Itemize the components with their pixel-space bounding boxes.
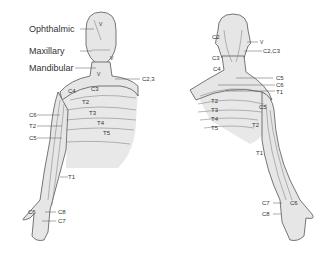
label-post-c5: C5 xyxy=(276,75,284,81)
label-post-c2: C2 xyxy=(212,34,220,40)
label-post-t3: T3 xyxy=(211,107,218,113)
label-post-arm-t2: T2 xyxy=(252,122,259,128)
label-arm-t2: T2 xyxy=(29,123,36,129)
label-arm-t1: T1 xyxy=(68,174,75,180)
label-post-c6: C6 xyxy=(276,82,284,88)
label-post-c3: C3 xyxy=(212,55,220,61)
label-post-c2c3: C2,C3 xyxy=(263,48,280,54)
label-c3: C3 xyxy=(91,86,99,92)
label-face-v3: V xyxy=(97,72,100,77)
label-arm-c5: C5 xyxy=(29,135,37,141)
dermatome-diagram: Ophthalmic Maxillary Mandibular V V V C2… xyxy=(0,0,326,254)
label-face-v2: V xyxy=(110,56,113,61)
label-ophthalmic: Ophthalmic xyxy=(29,25,75,34)
label-t2: T2 xyxy=(82,99,89,105)
label-c4: C4 xyxy=(68,88,76,94)
label-t4: T4 xyxy=(97,120,104,126)
label-hand-c8: C8 xyxy=(58,209,66,215)
label-t3: T3 xyxy=(89,110,96,116)
label-post-hand-c7: C7 xyxy=(262,200,270,206)
label-post-t1: T1 xyxy=(276,89,283,95)
label-hand-c6: C6 xyxy=(28,209,36,215)
label-mandibular: Mandibular xyxy=(29,64,74,73)
label-post-t5: T5 xyxy=(211,125,218,131)
body-outlines xyxy=(0,0,326,254)
label-c2-3: C2,3 xyxy=(142,76,155,82)
label-t5: T5 xyxy=(103,130,110,136)
label-post-arm-t1: T1 xyxy=(256,150,263,156)
label-maxillary: Maxillary xyxy=(29,47,65,56)
label-post-t4: T4 xyxy=(211,116,218,122)
label-arm-c6: C6 xyxy=(29,112,37,118)
label-hand-c7: C7 xyxy=(58,218,66,224)
label-face-v1: V xyxy=(99,22,102,27)
label-post-c4: C4 xyxy=(213,66,221,72)
label-post-t2: T2 xyxy=(211,98,218,104)
label-post-hand-c8: C8 xyxy=(262,211,270,217)
label-post-arm-c5: C5 xyxy=(259,104,267,110)
label-post-hand-c6: C6 xyxy=(290,200,298,206)
label-post-v: V xyxy=(260,40,263,45)
